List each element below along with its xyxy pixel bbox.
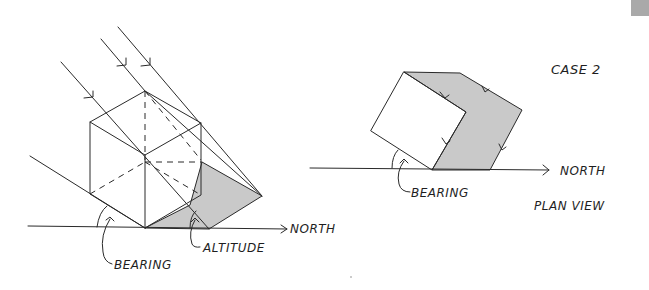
bearing-label-left: BEARING [114, 258, 172, 272]
bearing-arc-right [392, 150, 398, 168]
north-label-right: NORTH [560, 164, 606, 178]
altitude-label: ALTITUDE [202, 241, 265, 255]
cube-shadow-left [145, 162, 262, 229]
bearing-leader-left [102, 219, 112, 264]
north-label-left: NORTH [290, 222, 336, 236]
case-label: CASE 2 [551, 62, 601, 77]
plan-view: NORTH BEARING PLAN VIEW CASE 2 [310, 62, 606, 213]
cube-top-right [145, 123, 201, 155]
cube-shadow-plan [404, 72, 522, 170]
ray-arrow-1 [84, 91, 93, 98]
plan-view-label: PLAN VIEW [534, 199, 605, 213]
sun-ray-1 [61, 62, 209, 229]
bearing-arc-left [97, 206, 107, 227]
isometric-view: NORTH BEARING ALTITUDE [28, 27, 336, 272]
sun-shadow-diagram: NORTH BEARING ALTITUDE NORTH BEARING PLA… [0, 0, 649, 290]
cube-top-left [90, 122, 145, 155]
bearing-label-right: BEARING [411, 186, 469, 200]
sun-ray-3 [118, 27, 262, 196]
stray-dot [350, 276, 352, 278]
hidden-edge-left [90, 162, 145, 194]
bearing-leader-right [398, 161, 410, 192]
